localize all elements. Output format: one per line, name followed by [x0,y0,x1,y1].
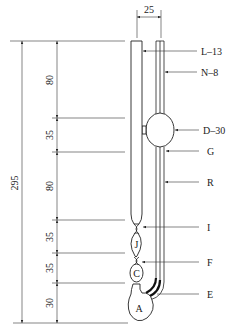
callout-l: L–13 [143,46,222,57]
bulb-c-label: C [133,268,140,279]
bulb-d [142,113,174,147]
segment-2-value: 35 [44,130,55,140]
callout-i-label: I [207,222,210,233]
width-dimension-value: 25 [144,4,154,15]
segment-3-value: 80 [44,181,55,191]
callout-f-label: F [207,257,213,268]
total-height-dimension: 295 [9,41,22,323]
callout-g-label: G [207,146,214,157]
segment-6-value: 30 [44,298,55,308]
viscometer-diagram: 25 295 80 35 80 35 35 30 [0,0,235,334]
callout-f: F [142,257,213,268]
callout-e: E [157,289,213,300]
callout-r-label: R [207,177,214,188]
callout-n: N–8 [165,67,218,78]
segment-1-value: 80 [44,75,55,85]
segment-dimensions: 80 35 80 35 35 30 [44,41,57,323]
bulb-a-label: A [135,303,143,314]
segment-5-value: 35 [44,263,55,273]
bulb-j: J [131,233,141,257]
callout-e-label: E [207,289,213,300]
callout-i: I [143,222,210,233]
bulb-j-label: J [135,239,139,250]
callout-n-label: N–8 [201,67,218,78]
bulb-c: C [130,264,143,282]
callout-d-label: D–30 [203,125,225,136]
callout-r: R [165,177,214,188]
total-height-value: 295 [9,176,20,191]
width-dimension: 25 [137,4,161,38]
callout-d: D–30 [175,125,225,136]
extension-lines [10,41,128,323]
callout-l-label: L–13 [201,46,222,57]
callout-g: G [166,146,214,157]
capillary-tube-n [146,41,164,300]
segment-4-value: 35 [44,232,55,242]
tube-l [131,41,142,224]
constriction-upper [134,224,139,234]
